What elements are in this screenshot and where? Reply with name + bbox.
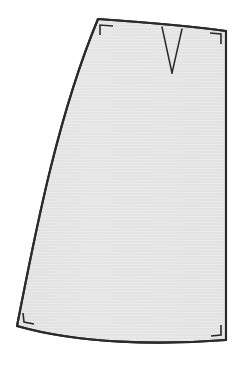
skirt-panel-illustration (0, 0, 240, 367)
illustration-canvas (0, 0, 240, 367)
